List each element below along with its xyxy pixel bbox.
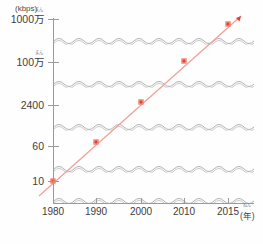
axis-break-band-4 [54,164,254,173]
axis-break-band-3 [54,122,254,131]
data-point-2000 [139,100,144,105]
y-label-number: 1000 [11,13,34,25]
x-axis-label-1990: 1990 [85,206,107,217]
y-tick-60 [48,146,59,147]
x-axis-label-2010: 2010 [173,206,195,217]
y-label-kanji: まん万 [34,14,44,24]
x-axis-label-2015: 2015 [217,206,239,217]
x-tick-1990 [96,198,97,204]
y-axis-label-60: 60 [32,141,44,152]
x-tick-2000 [141,198,142,204]
x-axis-line [53,203,254,204]
x-axis-label-2000: 2000 [130,206,152,217]
y-label-number: 100 [16,56,34,68]
axis-break-band-2 [54,79,254,88]
y-axis-unit-caption: (kbps) [15,4,37,13]
y-tick-2400 [48,105,59,106]
x-unit-kanji: ねん年 [243,209,252,221]
ruby-text: まん [35,51,43,55]
y-tick-10 [48,181,59,182]
y-label-number: 10 [32,175,44,187]
plot-area [54,18,254,203]
paren-close: ) [252,211,255,221]
x-tick-2010 [184,198,185,204]
y-axis-label-2400: 2400 [21,100,44,111]
kanji-text: 万 [34,56,44,68]
y-tick-100man [48,62,59,63]
y-tick-1000man [48,19,59,20]
axis-break-band-1 [54,36,254,45]
y-axis-label-10: 10 [32,176,44,187]
y-axis-label-1000man: 1000まん万 [11,14,44,25]
data-point-1990 [94,140,99,145]
chart-figure: (kbps) [0,0,263,244]
data-point-2010 [182,59,187,64]
ruby-text: ねん [243,204,251,208]
x-tick-1980 [53,198,54,204]
x-axis-label-1980: 1980 [42,206,64,217]
y-label-kanji: まん万 [34,57,44,67]
axis-break-band-5 [54,196,254,203]
kanji-text: 万 [34,13,44,25]
ruby-text: まん [35,8,43,12]
y-label-number: 60 [32,140,44,152]
y-axis-line [53,18,54,204]
y-axis-label-100man: 100まん万 [16,57,44,68]
x-tick-2015 [228,198,229,204]
kanji-text: 年 [243,211,252,221]
data-point-2015 [226,22,231,27]
x-axis-unit-caption: (ねん年) [240,209,255,221]
y-label-number: 2400 [21,99,44,111]
